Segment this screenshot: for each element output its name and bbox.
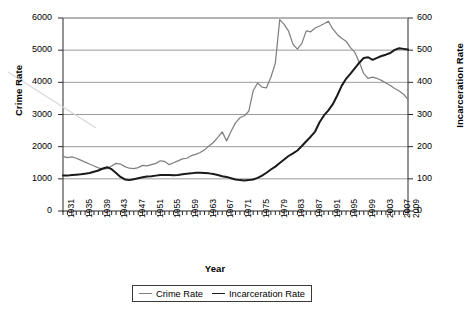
x-axis-tick-label: 1975 [261, 199, 271, 218]
y-axis-left-tick-label: 1000 [12, 173, 52, 183]
x-axis-title: Year [160, 263, 270, 274]
x-axis-tick-label: 1999 [367, 199, 377, 218]
y-axis-right-tick-label: 500 [417, 44, 457, 54]
y-axis-left-tick-label: 2000 [12, 141, 52, 151]
y-axis-right-tick-label: 200 [417, 141, 457, 151]
legend-label: Crime Rate [156, 289, 203, 299]
legend-label: Incarceration Rate [229, 289, 305, 299]
legend-swatch-icon [212, 293, 225, 294]
x-axis-tick-label: 2003 [385, 199, 395, 218]
x-axis-tick-label: 1951 [155, 199, 165, 218]
y-axis-left-tick-label: 0 [12, 205, 52, 215]
y-axis-left-title: Crime Rate [13, 51, 24, 131]
x-axis-tick-label: 1979 [279, 199, 289, 218]
y-axis-right-tick-label: 600 [417, 12, 457, 22]
x-axis-tick-label: 1939 [102, 199, 112, 218]
x-axis-tick-label: 1987 [314, 199, 324, 218]
y-axis-right-tick-label: 300 [417, 109, 457, 119]
chart-legend: Crime RateIncarceration Rate [132, 285, 312, 302]
x-axis-tick-label: 1955 [172, 199, 182, 218]
x-axis-tick-label: 1943 [119, 199, 129, 218]
x-axis-tick-label: 1931 [66, 199, 76, 218]
y-axis-left-tick-label: 5000 [12, 44, 52, 54]
y-axis-left-tick-label: 6000 [12, 12, 52, 22]
y-axis-left-tick-label: 4000 [12, 76, 52, 86]
y-axis-right-tick-label: 0 [417, 205, 457, 215]
x-axis-tick-label: 1963 [208, 199, 218, 218]
y-axis-right-tick-label: 400 [417, 76, 457, 86]
x-axis-tick-label: 1947 [137, 199, 147, 218]
x-axis-tick-label: 1983 [296, 199, 306, 218]
y-axis-right-tick-label: 100 [417, 173, 457, 183]
y-axis-left-tick-label: 3000 [12, 109, 52, 119]
x-axis-tick-label: 1995 [349, 199, 359, 218]
x-axis-tick-label: 2009 [411, 199, 421, 218]
x-axis-tick-label: 1991 [332, 199, 342, 218]
legend-swatch-icon [139, 293, 152, 294]
x-axis-tick-label: 1967 [225, 199, 235, 218]
x-axis-tick-label: 1935 [84, 199, 94, 218]
gridlines [63, 18, 408, 179]
tick-marks [58, 18, 413, 215]
legend-item: Crime Rate [139, 289, 203, 299]
series-lines [63, 20, 408, 181]
x-axis-tick-label: 1959 [190, 199, 200, 218]
x-axis-tick-label: 1971 [243, 199, 253, 218]
legend-item: Incarceration Rate [212, 289, 305, 299]
